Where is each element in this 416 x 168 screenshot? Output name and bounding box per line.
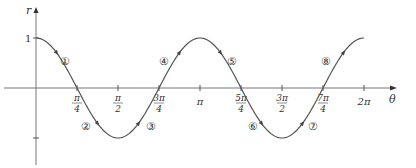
region-label: ⑧ [321, 55, 331, 68]
x-axis-arrow-icon [390, 86, 397, 91]
y-tick-label-1: 1 [25, 33, 31, 44]
x-tick-label-den: 4 [73, 104, 80, 114]
x-axis-label: θ [389, 93, 396, 106]
region-label: ① [60, 55, 70, 68]
region-annotations: ①②③④⑤⑥⑦⑧ [60, 55, 331, 133]
x-ticks: π4π23π4π5π43π27π42π [72, 85, 371, 114]
x-tick-label-den: 4 [237, 104, 244, 114]
region-label: ⑥ [248, 120, 258, 133]
region-label: ⑤ [227, 55, 237, 68]
x-tick-label-den: 2 [278, 104, 285, 114]
region-label: ④ [159, 55, 169, 68]
polar-graph-chart: r θ 1 π4π23π4π5π43π27π42π ①②③④⑤⑥⑦⑧ [0, 0, 416, 168]
x-tick-label-num: π [114, 93, 122, 103]
y-axis-label: r [26, 4, 32, 17]
x-tick-label: π [196, 96, 204, 107]
x-tick-label-den: 4 [319, 104, 326, 114]
y-axis-arrow-icon [34, 7, 39, 13]
region-label: ③ [146, 120, 156, 133]
x-tick-label-den: 2 [114, 104, 121, 114]
region-label: ② [81, 120, 91, 133]
x-tick-label-den: 4 [155, 104, 162, 114]
region-label: ⑦ [308, 120, 318, 133]
x-tick-label: 2π [357, 96, 371, 107]
axes: r θ 1 [4, 4, 397, 165]
x-tick-label-num: 3π [276, 93, 289, 103]
